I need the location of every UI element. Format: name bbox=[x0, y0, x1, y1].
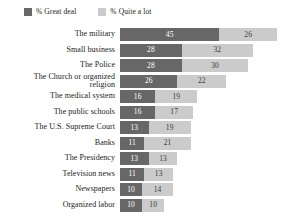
bar-value-label: 13 bbox=[159, 155, 167, 163]
category-label: Newspapers bbox=[0, 185, 120, 193]
chart-row: The Police2830 bbox=[0, 59, 304, 72]
chart-row: The Church or organized religion2622 bbox=[0, 75, 304, 88]
bar-value-label: 28 bbox=[147, 46, 155, 54]
category-label: The Presidency bbox=[0, 154, 120, 162]
bar-segment-great-deal: 26 bbox=[120, 75, 177, 88]
bar-value-label: 17 bbox=[170, 108, 178, 116]
category-label: The Police bbox=[0, 61, 120, 69]
bar-segment-great-deal: 16 bbox=[120, 106, 155, 119]
bar-value-label: 21 bbox=[164, 139, 172, 147]
bar-segment-great-deal: 10 bbox=[120, 199, 142, 212]
category-label: Organized labor bbox=[0, 201, 120, 209]
chart-row: Small business2832 bbox=[0, 44, 304, 57]
category-label: Television news bbox=[0, 170, 120, 178]
bar-segment-quite-a-lot: 26 bbox=[219, 28, 276, 41]
bar-segment-great-deal: 13 bbox=[120, 152, 149, 165]
bar-segment-great-deal: 28 bbox=[120, 44, 182, 57]
bar-segment-quite-a-lot: 22 bbox=[177, 75, 226, 88]
bar-value-label: 14 bbox=[154, 186, 162, 194]
bar-segment-quite-a-lot: 14 bbox=[142, 183, 173, 196]
bar-value-label: 28 bbox=[147, 62, 155, 70]
stacked-bar: 2830 bbox=[120, 59, 304, 72]
category-label: The public schools bbox=[0, 108, 120, 116]
chart-row: Banks1121 bbox=[0, 137, 304, 150]
stacked-bar: 1313 bbox=[120, 152, 304, 165]
bar-value-label: 45 bbox=[166, 31, 174, 39]
bar-value-label: 13 bbox=[155, 170, 163, 178]
bar-value-label: 10 bbox=[127, 186, 135, 194]
stacked-bar: 2622 bbox=[120, 75, 304, 88]
stacked-bar: 1319 bbox=[120, 121, 304, 134]
bar-value-label: 19 bbox=[166, 124, 174, 132]
bar-value-label: 11 bbox=[128, 139, 135, 147]
stacked-bar: 1617 bbox=[120, 106, 304, 119]
bar-segment-great-deal: 16 bbox=[120, 90, 155, 103]
stacked-bar: 1619 bbox=[120, 90, 304, 103]
bar-value-label: 26 bbox=[244, 31, 252, 39]
category-label: Banks bbox=[0, 139, 120, 147]
stacked-bar: 2832 bbox=[120, 44, 304, 57]
chart-row: The public schools1617 bbox=[0, 106, 304, 119]
legend-swatch-great-deal bbox=[24, 8, 32, 16]
category-label: Small business bbox=[0, 46, 120, 54]
bar-value-label: 13 bbox=[131, 155, 139, 163]
chart-legend: % Great deal % Quite a lot bbox=[0, 0, 304, 18]
chart-row: Television news1113 bbox=[0, 168, 304, 181]
bar-segment-great-deal: 28 bbox=[120, 59, 182, 72]
bar-segment-great-deal: 45 bbox=[120, 28, 219, 41]
bar-segment-great-deal: 11 bbox=[120, 137, 144, 150]
stacked-bar: 1113 bbox=[120, 168, 304, 181]
chart-row: The U.S. Supreme Court1319 bbox=[0, 121, 304, 134]
bar-value-label: 10 bbox=[149, 201, 157, 209]
bar-value-label: 13 bbox=[131, 124, 139, 132]
bar-value-label: 10 bbox=[127, 201, 135, 209]
bar-value-label: 22 bbox=[198, 77, 206, 85]
legend-item-quite-a-lot: % Quite a lot bbox=[98, 7, 151, 16]
bar-segment-quite-a-lot: 19 bbox=[155, 90, 197, 103]
bar-value-label: 32 bbox=[213, 46, 221, 54]
bar-value-label: 16 bbox=[134, 93, 142, 101]
bar-value-label: 16 bbox=[134, 108, 142, 116]
category-label: The medical system bbox=[0, 92, 120, 100]
category-label: The Church or organized religion bbox=[0, 73, 120, 90]
bar-value-label: 30 bbox=[211, 62, 219, 70]
bar-segment-quite-a-lot: 13 bbox=[149, 152, 178, 165]
bar-segment-quite-a-lot: 19 bbox=[149, 121, 191, 134]
bar-segment-quite-a-lot: 30 bbox=[182, 59, 248, 72]
category-label: The U.S. Supreme Court bbox=[0, 123, 120, 131]
bar-segment-quite-a-lot: 10 bbox=[142, 199, 164, 212]
stacked-bar: 1010 bbox=[120, 199, 304, 212]
bar-segment-great-deal: 11 bbox=[120, 168, 144, 181]
chart-row: The military4526 bbox=[0, 28, 304, 41]
chart-row: Organized labor1010 bbox=[0, 199, 304, 212]
bar-segment-great-deal: 13 bbox=[120, 121, 149, 134]
bar-segment-quite-a-lot: 32 bbox=[182, 44, 253, 57]
stacked-bar: 1014 bbox=[120, 183, 304, 196]
chart-row: The Presidency1313 bbox=[0, 152, 304, 165]
bar-segment-great-deal: 10 bbox=[120, 183, 142, 196]
chart-row: The medical system1619 bbox=[0, 90, 304, 103]
legend-swatch-quite-a-lot bbox=[98, 8, 106, 16]
stacked-bar: 4526 bbox=[120, 28, 304, 41]
legend-item-great-deal: % Great deal bbox=[24, 7, 76, 16]
legend-label-great-deal: % Great deal bbox=[36, 7, 76, 16]
category-label: The military bbox=[0, 30, 120, 38]
chart-rows: The military4526Small business2832The Po… bbox=[0, 28, 304, 214]
chart-row: Newspapers1014 bbox=[0, 183, 304, 196]
stacked-bar-chart: % Great deal % Quite a lot The military4… bbox=[0, 0, 304, 217]
bar-segment-quite-a-lot: 13 bbox=[144, 168, 173, 181]
stacked-bar: 1121 bbox=[120, 137, 304, 150]
bar-value-label: 26 bbox=[145, 77, 153, 85]
bar-segment-quite-a-lot: 21 bbox=[144, 137, 190, 150]
legend-label-quite-a-lot: % Quite a lot bbox=[110, 7, 151, 16]
bar-value-label: 11 bbox=[128, 170, 135, 178]
bar-segment-quite-a-lot: 17 bbox=[155, 106, 193, 119]
bar-value-label: 19 bbox=[173, 93, 181, 101]
